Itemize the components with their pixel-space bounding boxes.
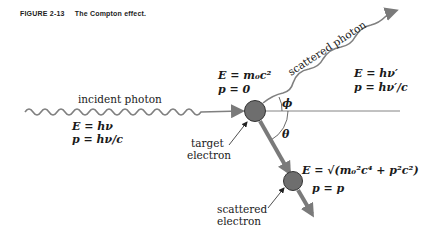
target-energy-eq: E = m₀c² <box>217 69 271 82</box>
target-electron-pointer <box>229 122 247 145</box>
target-electron-label-1: target <box>191 137 224 149</box>
compton-diagram: incident photon scattered photon target … <box>0 0 429 237</box>
incident-photon-label: incident photon <box>78 93 162 105</box>
target-electron <box>245 101 266 122</box>
theta-label: θ <box>282 128 290 141</box>
incident-energy-eq: E = hν <box>71 120 113 133</box>
scattered-electron-energy-eq: E = √(m₀²c⁴ + p²c²) <box>301 164 419 177</box>
scattered-photon-momentum-eq: p = hν′/c <box>354 81 408 94</box>
scattered-electron-momentum-eq: p = p <box>312 182 345 195</box>
incident-momentum-eq: p = hν/c <box>72 133 123 146</box>
incident-photon-wave <box>25 109 241 115</box>
target-momentum-eq: p = 0 <box>218 83 251 96</box>
scattered-photon-energy-eq: E = hν′ <box>353 67 398 80</box>
scattered-electron-pointer <box>268 188 284 208</box>
scattered-electron <box>284 172 303 191</box>
electron-exit-arrow <box>298 190 312 214</box>
phi-label: ϕ <box>282 97 293 110</box>
target-electron-label-2: electron <box>187 149 231 161</box>
scattered-electron-label-1: scattered <box>217 203 267 215</box>
scattered-electron-label-2: electron <box>217 215 261 227</box>
